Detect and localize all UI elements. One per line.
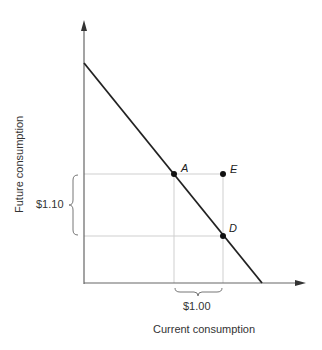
point-d-label: D <box>229 222 237 234</box>
point-a-label: A <box>181 162 188 174</box>
point-e <box>220 171 226 177</box>
x-axis-label: Current consumption <box>153 323 255 335</box>
y-axis-arrow-icon <box>81 20 87 31</box>
brace-x-label: $1.00 <box>183 300 211 312</box>
diagram-canvas <box>0 0 322 350</box>
axes <box>81 20 306 286</box>
y-axis-label: Future consumption <box>13 116 25 213</box>
brace-horizontal-icon <box>175 288 222 296</box>
x-axis-arrow-icon <box>295 280 306 286</box>
brace-vertical-icon <box>69 175 78 235</box>
brace-y-label: $1.10 <box>36 198 64 210</box>
point-a <box>171 171 177 177</box>
point-e-label: E <box>230 163 237 175</box>
guide-lines <box>84 174 223 283</box>
point-d <box>220 233 226 239</box>
